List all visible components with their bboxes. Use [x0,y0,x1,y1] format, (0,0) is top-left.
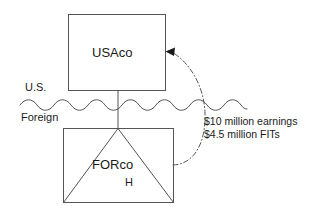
foreign-region-label: Foreign [21,112,58,123]
flow-arrowhead-icon [166,48,176,57]
forco-label: FORco [92,158,133,171]
us-region-label: U.S. [25,82,46,93]
usaco-label: USAco [92,46,132,59]
diagram-canvas: USAco FORco H U.S. Foreign $10 million e… [0,0,317,215]
earnings-annotation-line-1: $10 million earnings [204,116,297,127]
diagram-graphics [0,0,317,215]
forco-sub-label: H [125,177,133,188]
earnings-annotation-line-2: $4.5 million FITs [204,129,280,140]
border-wavy-line [20,100,247,111]
